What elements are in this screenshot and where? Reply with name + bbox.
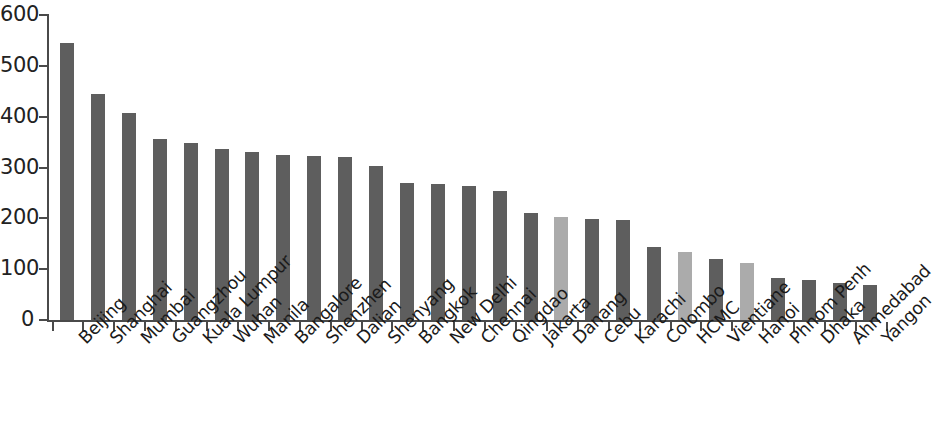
x-axis-label-manila: Manila bbox=[261, 335, 273, 347]
x-axis-label-ahmedabad: Ahmedabad bbox=[849, 335, 861, 347]
x-axis-label-kuala-lumpur: Kuala Lumpur bbox=[200, 335, 212, 347]
x-axis-label-dhaka: Dhaka bbox=[818, 335, 830, 347]
x-axis-label-colombo: Colombo bbox=[663, 335, 675, 347]
x-axis-label-new-delhi: New Delhi bbox=[447, 335, 459, 347]
x-axis-label-qingdao: Qingdao bbox=[509, 335, 521, 347]
x-axis-label-mumbai: Mumbai bbox=[138, 335, 150, 347]
x-axis-label-shanghai: Shanghai bbox=[107, 335, 119, 347]
x-axis-label-dalian: Dalian bbox=[354, 335, 366, 347]
x-axis-label-hanoi: Hanoi bbox=[756, 335, 768, 347]
x-axis-label-jakarta: Jakarta bbox=[540, 335, 552, 347]
x-axis-label-cebu: Cebu bbox=[601, 335, 613, 347]
x-axis-label-shenzhen: Shenzhen bbox=[323, 335, 335, 347]
x-axis-label-karachi: Karachi bbox=[632, 335, 644, 347]
x-axis-label-guangzhou: Guangzhou bbox=[169, 335, 181, 347]
x-axis-label-shenyang: Shenyang bbox=[385, 335, 397, 347]
x-axis-label-hcmc: HCMC bbox=[694, 335, 706, 347]
x-axis-label-bangalore: Bangalore bbox=[292, 335, 304, 347]
x-axis-label-danang: Danang bbox=[570, 335, 582, 347]
x-axis-label-wuhan: Wuhan bbox=[231, 335, 243, 347]
x-axis-label-chennai: Chennai bbox=[478, 335, 490, 347]
x-axis-label-vientiane: Vientiane bbox=[725, 335, 737, 347]
x-axis-label-beijing: Beijing bbox=[76, 335, 88, 347]
x-axis-label-bangkok: Bangkok bbox=[416, 335, 428, 347]
x-axis-label-yangon: Yangon bbox=[879, 335, 891, 347]
x-axis-label-phnom-penh: Phnom Penh bbox=[787, 335, 799, 347]
